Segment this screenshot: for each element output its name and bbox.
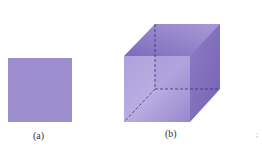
square-shape bbox=[8, 58, 72, 122]
stray-mark: ; bbox=[256, 130, 258, 139]
caption-b: (b) bbox=[165, 128, 177, 139]
caption-a: (a) bbox=[33, 130, 44, 141]
cube-shape bbox=[124, 24, 220, 122]
